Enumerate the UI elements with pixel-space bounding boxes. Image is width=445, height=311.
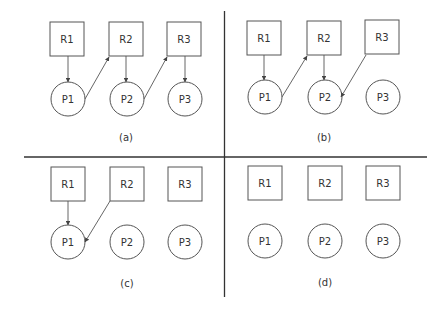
svg-text:P1: P1 xyxy=(259,236,271,247)
svg-text:R3: R3 xyxy=(375,32,388,43)
svg-text:P2: P2 xyxy=(121,237,133,248)
svg-text:R3: R3 xyxy=(376,178,389,189)
process-node-p2: P2 xyxy=(110,82,144,116)
panel-caption: (c) xyxy=(120,278,133,289)
panel-caption: (d) xyxy=(318,277,332,288)
process-node-p1: P1 xyxy=(51,82,85,116)
resource-allocation-diagram: R1 R2 R3 P1 P2 P3 (a) R xyxy=(0,0,445,311)
edge-p1-r2 xyxy=(282,56,307,97)
resource-node-r3: R3 xyxy=(168,167,202,201)
svg-text:P3: P3 xyxy=(377,236,389,247)
process-node-p3: P3 xyxy=(366,80,400,114)
svg-text:R1: R1 xyxy=(60,34,73,45)
svg-text:P1: P1 xyxy=(62,237,74,248)
resource-node-r2: R2 xyxy=(307,21,341,55)
svg-text:P3: P3 xyxy=(377,92,389,103)
panel-caption: (a) xyxy=(119,132,133,143)
resource-node-r2: R2 xyxy=(110,167,144,201)
resource-node-r1: R1 xyxy=(247,21,281,55)
svg-text:P3: P3 xyxy=(179,237,191,248)
panel-caption: (b) xyxy=(317,132,331,143)
process-node-p1: P1 xyxy=(248,224,282,258)
svg-text:P2: P2 xyxy=(121,94,133,105)
svg-text:R1: R1 xyxy=(258,178,271,189)
process-node-p1: P1 xyxy=(51,225,85,259)
svg-text:R2: R2 xyxy=(119,34,132,45)
resource-node-r1: R1 xyxy=(50,22,84,56)
process-node-p1: P1 xyxy=(248,80,282,114)
svg-text:R3: R3 xyxy=(177,34,190,45)
edge-p1-r2 xyxy=(85,57,109,99)
svg-text:R2: R2 xyxy=(317,33,330,44)
process-node-p3: P3 xyxy=(366,224,400,258)
resource-node-r3: R3 xyxy=(365,20,399,54)
panel-d: R1 R2 R3 P1 P2 P3 (d) xyxy=(248,166,400,288)
svg-text:P3: P3 xyxy=(179,94,191,105)
panel-a: R1 R2 R3 P1 P2 P3 (a) xyxy=(50,22,202,143)
resource-node-r3: R3 xyxy=(366,166,400,200)
edge-r3-p2 xyxy=(341,55,366,97)
svg-text:R1: R1 xyxy=(61,179,74,190)
svg-text:P1: P1 xyxy=(62,94,74,105)
process-node-p2: P2 xyxy=(308,224,342,258)
svg-text:P2: P2 xyxy=(319,92,331,103)
svg-text:P2: P2 xyxy=(319,236,331,247)
process-node-p3: P3 xyxy=(168,225,202,259)
edge-r2-p1 xyxy=(85,201,110,242)
svg-text:R1: R1 xyxy=(257,33,270,44)
panel-c: R1 R2 R3 P1 P2 P3 (c) xyxy=(51,167,202,289)
svg-text:P1: P1 xyxy=(259,92,271,103)
resource-node-r1: R1 xyxy=(248,166,282,200)
process-node-p2: P2 xyxy=(308,80,342,114)
svg-text:R3: R3 xyxy=(178,179,191,190)
resource-node-r3: R3 xyxy=(167,22,201,56)
svg-text:R2: R2 xyxy=(120,179,133,190)
resource-node-r2: R2 xyxy=(109,22,143,56)
resource-node-r2: R2 xyxy=(308,166,342,200)
process-node-p2: P2 xyxy=(110,225,144,259)
panel-b: R1 R2 R3 P1 P2 P3 (b) xyxy=(247,20,400,143)
process-node-p3: P3 xyxy=(168,82,202,116)
resource-node-r1: R1 xyxy=(51,167,85,201)
edge-p2-r3 xyxy=(144,57,167,99)
svg-text:R2: R2 xyxy=(318,178,331,189)
